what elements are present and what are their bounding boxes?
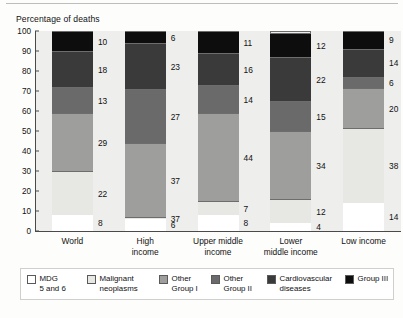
bar-segment[interactable]: 20 [343, 88, 384, 128]
bar-segment[interactable]: 34 [270, 131, 311, 199]
legend-swatch [87, 275, 96, 284]
stacked-bar[interactable]: 6373727236 [125, 31, 166, 231]
bar-segment-value: 8 [244, 218, 249, 228]
bar-segment[interactable]: 6 [125, 219, 166, 231]
bar-segment[interactable]: 14 [343, 203, 384, 231]
bar-group: 6373727236 [125, 31, 166, 231]
bar-segment-value: 16 [244, 65, 253, 75]
top-divider [6, 3, 398, 4]
bar-segment[interactable]: 15 [270, 101, 311, 131]
y-axis-tick-label: 100 [7, 27, 31, 36]
bar-segment[interactable]: 6 [343, 77, 384, 89]
legend-item[interactable]: Other Group II [211, 274, 267, 293]
bar-segment[interactable]: 37 [125, 143, 166, 217]
bar-segment[interactable]: 9 [343, 31, 384, 49]
bar-segment-value: 18 [98, 65, 107, 75]
bar-segment[interactable]: 18 [52, 51, 93, 87]
bar-group: 82229131810 [52, 31, 93, 231]
bar-segment-value: 12 [316, 207, 325, 217]
y-axis-tick-label: 50 [7, 127, 31, 136]
legend-swatch [211, 275, 220, 284]
legend-label: Group III [358, 274, 389, 284]
bar-segment[interactable]: 4 [270, 223, 311, 231]
legend-swatch [159, 275, 168, 284]
bar-segment[interactable]: 29 [52, 113, 93, 171]
x-axis-category-label: Lowermiddle income [254, 236, 327, 257]
legend-item[interactable]: MDG 5 and 6 [27, 274, 87, 293]
bar-segment[interactable]: 16 [198, 53, 239, 85]
y-axis-tick-label: 10 [7, 207, 31, 216]
legend-item[interactable]: Malignant neoplasms [87, 274, 159, 293]
bar-segment[interactable]: 14 [198, 85, 239, 113]
bar-segment-value: 9 [389, 35, 394, 45]
bar-segment[interactable]: 37 [125, 217, 166, 219]
bar-segment[interactable]: 13 [52, 87, 93, 113]
bar-segment-value: 4 [316, 222, 321, 232]
x-axis-category-label: Highincome [109, 236, 182, 257]
bar-segment[interactable]: 14 [343, 49, 384, 77]
legend-swatch [345, 275, 354, 284]
bar-segment[interactable]: 23 [125, 43, 166, 89]
legend-label: Malignant neoplasms [100, 274, 138, 293]
bar-segment-value: 44 [244, 153, 253, 163]
bar-segment-value: 38 [389, 161, 398, 171]
stacked-bar[interactable]: 8744141611 [198, 31, 239, 231]
bar-group: 8744141611 [198, 31, 239, 231]
bar-segment-value: 8 [98, 218, 103, 228]
bar-segment-value: 14 [389, 212, 398, 222]
bar-segment-value: 7 [244, 204, 249, 214]
legend-label: MDG 5 and 6 [40, 274, 66, 293]
bar-segment[interactable]: 8 [198, 215, 239, 231]
bar-segment-value: 34 [316, 161, 325, 171]
bar-segment-value: 29 [98, 138, 107, 148]
bar-segment[interactable]: 22 [270, 57, 311, 101]
bar-segment[interactable]: 12 [270, 199, 311, 223]
bar-segment[interactable]: 10 [52, 31, 93, 51]
legend-label: Cardiovascular diseases [280, 274, 333, 293]
bar-segment-value: 27 [171, 112, 180, 122]
x-axis-category-label: Low income [327, 236, 400, 247]
stacked-bar[interactable]: 82229131810 [52, 31, 93, 231]
bar-segment[interactable]: 12 [270, 33, 311, 57]
bar-segment[interactable]: 11 [198, 31, 239, 53]
legend-swatch [27, 275, 36, 284]
x-axis-category-label: World [36, 236, 109, 247]
y-axis-tick-label: 60 [7, 107, 31, 116]
legend-item[interactable]: Cardiovascular diseases [267, 274, 345, 293]
y-axis-tick-label: 40 [7, 147, 31, 156]
chart-legend: MDG 5 and 6Malignant neoplasmsOther Grou… [20, 268, 394, 300]
stacked-bar[interactable]: 1438206149 [343, 31, 384, 231]
bars-container: 8222913181063737272368744141611412341522… [36, 31, 400, 231]
bar-segment[interactable]: 8 [52, 215, 93, 231]
stacked-bar-chart: Percentage of deaths 0102030405060708090… [0, 0, 403, 318]
bar-segment-value: 6 [171, 33, 176, 43]
bar-segment-value: 14 [389, 58, 398, 68]
legend-label: Other Group I [172, 274, 198, 293]
bar-group: 1438206149 [343, 31, 384, 231]
bar-segment-value: 37 [171, 176, 180, 186]
legend-label: Other Group II [224, 274, 253, 293]
legend-swatch [267, 275, 276, 284]
bar-segment[interactable]: 44 [198, 113, 239, 201]
bar-segment-value: 12 [316, 41, 325, 51]
y-axis-tick-label: 30 [7, 167, 31, 176]
bar-segment[interactable]: 27 [125, 89, 166, 143]
y-axis-tick-label: 0 [7, 227, 31, 236]
legend-item[interactable]: Group III [345, 274, 399, 284]
legend-item[interactable]: Other Group I [159, 274, 211, 293]
bar-segment-value: 15 [316, 112, 325, 122]
bar-segment-value: 22 [316, 75, 325, 85]
bar-segment-value: 13 [98, 96, 107, 106]
bar-segment-value: 23 [171, 62, 180, 72]
bar-segment-value: 37 [171, 214, 180, 224]
y-axis-tick-label: 20 [7, 187, 31, 196]
bar-group: 41234152212 [270, 31, 311, 231]
bar-segment[interactable]: 7 [198, 201, 239, 215]
bar-segment-value: 6 [389, 78, 394, 88]
bar-segment-value: 10 [98, 37, 107, 47]
bar-segment[interactable]: 6 [125, 31, 166, 43]
bar-segment[interactable]: 38 [343, 128, 384, 203]
bar-segment[interactable]: 22 [52, 171, 93, 215]
stacked-bar[interactable]: 41234152212 [270, 31, 311, 231]
y-axis-tick-label: 70 [7, 87, 31, 96]
